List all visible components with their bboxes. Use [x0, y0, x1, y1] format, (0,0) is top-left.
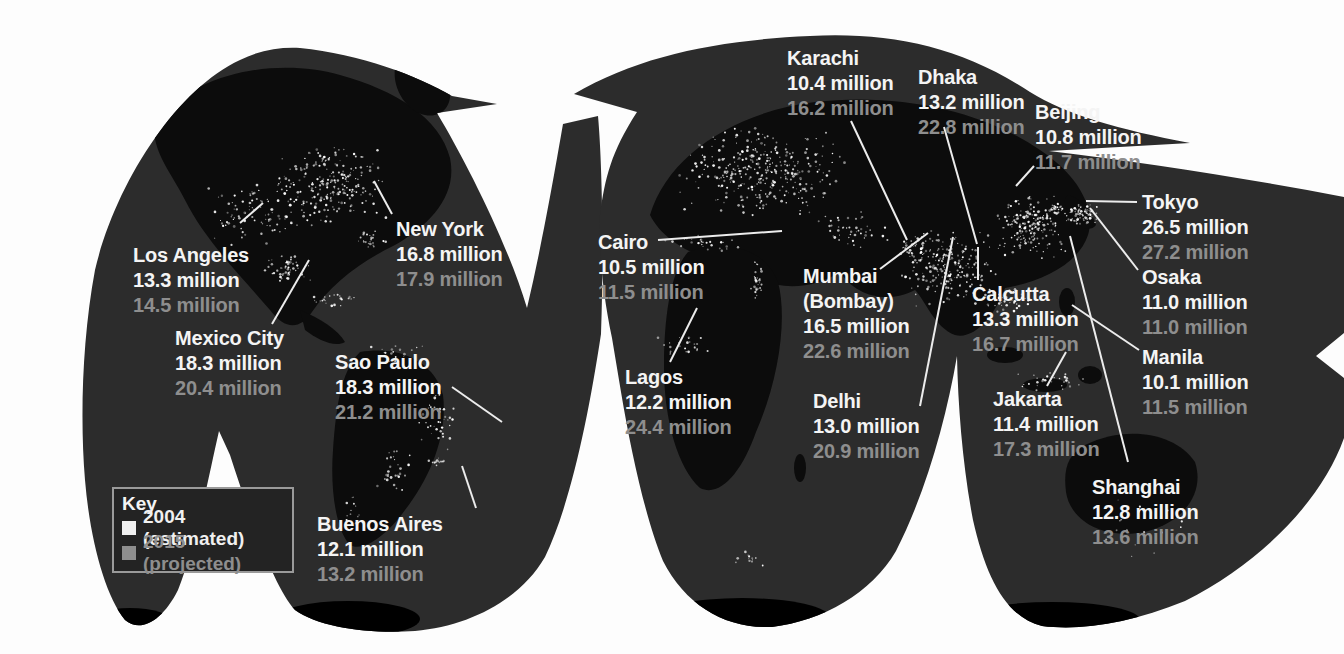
city-light-dot: [940, 268, 943, 271]
city-light-dot: [1043, 228, 1045, 230]
city-light-dot: [361, 202, 363, 204]
city-light-dot: [252, 192, 254, 194]
city-light-dot: [723, 180, 725, 182]
city-light-dot: [765, 151, 766, 152]
city-light-dot: [244, 234, 246, 236]
city-light-dot: [784, 160, 786, 162]
city-light-dot: [740, 176, 742, 178]
city-light-dot: [372, 203, 375, 206]
city-light-dot: [914, 259, 917, 262]
city-light-dot: [711, 156, 713, 158]
city-light-dot: [970, 255, 972, 257]
city-light-dot: [372, 242, 374, 244]
city-light-dot: [282, 273, 284, 275]
city-light-dot: [854, 234, 857, 237]
city-light-dot: [289, 261, 292, 264]
city-light-dot: [436, 464, 438, 466]
city-light-dot: [313, 196, 315, 198]
city-light-dot: [856, 231, 857, 232]
city-light-dot: [365, 241, 367, 243]
population-2004: 10.5 million: [598, 255, 705, 280]
city-light-dot: [741, 183, 742, 184]
city-light-dot: [1035, 246, 1036, 247]
city-light-dot: [434, 426, 435, 427]
city-light-dot: [376, 149, 378, 151]
city-light-dot: [922, 254, 923, 255]
city-light-dot: [343, 149, 345, 151]
city-light-dot: [785, 148, 787, 150]
city-light-dot: [280, 267, 281, 268]
city-light-dot: [932, 279, 935, 282]
city-light-dot: [349, 189, 351, 191]
city-light-dot: [838, 219, 840, 221]
city-light-dot: [981, 275, 983, 277]
city-light-dot: [315, 163, 318, 166]
city-light-dot: [437, 437, 439, 439]
city-light-dot: [365, 200, 367, 202]
city-light-dot: [316, 178, 318, 180]
city-light-dot: [1054, 230, 1056, 232]
city-light-dot: [729, 163, 731, 165]
city-light-dot: [809, 212, 811, 214]
city-light-dot: [745, 173, 747, 175]
population-2004: 10.8 million: [1035, 125, 1142, 150]
city-light-dot: [302, 200, 304, 202]
city-light-dot: [435, 428, 437, 430]
city-light-dot: [384, 241, 387, 244]
city-light-dot: [1018, 236, 1020, 238]
city-light-dot: [829, 183, 831, 185]
city-light-dot: [1018, 374, 1019, 375]
city-label-cairo: Cairo10.5 million11.5 million: [598, 230, 705, 305]
leader-line-tokyo: [1086, 201, 1137, 202]
city-light-dot: [1014, 245, 1016, 247]
city-light-dot: [241, 237, 243, 239]
city-light-dot: [258, 190, 259, 191]
city-light-dot: [1078, 214, 1079, 215]
city-light-dot: [784, 174, 785, 175]
city-light-dot: [1049, 218, 1051, 220]
city-light-dot: [348, 296, 350, 298]
city-light-dot: [1020, 242, 1022, 244]
city-light-dot: [1034, 214, 1037, 217]
city-light-dot: [847, 243, 849, 245]
city-light-dot: [995, 273, 997, 275]
city-light-dot: [769, 163, 771, 165]
city-light-dot: [869, 229, 871, 231]
city-light-dot: [1019, 224, 1020, 225]
city-light-dot: [262, 223, 263, 224]
city-light-dot: [818, 169, 820, 171]
population-2015: 20.9 million: [813, 439, 920, 464]
city-light-dot: [756, 159, 758, 161]
city-light-dot: [430, 425, 432, 427]
city-light-dot: [700, 161, 703, 164]
city-light-dot: [1034, 225, 1035, 226]
city-light-dot: [775, 198, 777, 200]
city-light-dot: [240, 228, 242, 230]
city-light-dot: [734, 173, 736, 175]
city-name-alt: (Bombay): [803, 289, 910, 314]
city-light-dot: [776, 142, 778, 144]
city-light-dot: [944, 267, 946, 269]
city-light-dot: [886, 239, 888, 241]
city-light-dot: [937, 264, 939, 266]
city-light-dot: [398, 475, 400, 477]
city-label-beijing: Beijing10.8 million11.7 million: [1035, 100, 1142, 175]
city-light-dot: [769, 192, 772, 195]
city-light-dot: [390, 476, 393, 479]
city-light-dot: [234, 194, 236, 196]
city-light-dot: [948, 299, 950, 301]
city-light-dot: [314, 205, 317, 208]
city-light-dot: [227, 222, 230, 225]
city-light-dot: [323, 156, 326, 159]
city-light-dot: [284, 192, 287, 195]
city-light-dot: [781, 170, 783, 172]
population-2015: 20.4 million: [175, 376, 284, 401]
city-light-dot: [801, 170, 803, 172]
city-light-dot: [432, 462, 433, 463]
city-light-dot: [281, 256, 282, 257]
city-light-dot: [344, 202, 346, 204]
city-light-dot: [837, 229, 840, 232]
city-light-dot: [303, 276, 304, 277]
city-light-dot: [378, 180, 380, 182]
city-light-dot: [802, 202, 804, 204]
